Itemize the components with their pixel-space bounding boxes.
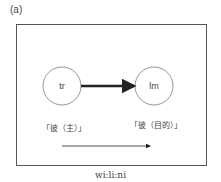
node-tr-label: tr: [59, 81, 65, 91]
diagram-canvas: tr lm 「彼（主）」 「彼（目的）」: [0, 0, 221, 182]
node-lm: lm: [135, 67, 173, 105]
node-lm-label: lm: [149, 81, 159, 91]
figure-caption: wi:li:ni: [0, 170, 221, 180]
tr-sublabel: 「彼（主）」: [42, 123, 86, 133]
lm-sublabel: 「彼（目的）」: [130, 120, 182, 130]
node-tr: tr: [43, 67, 81, 105]
